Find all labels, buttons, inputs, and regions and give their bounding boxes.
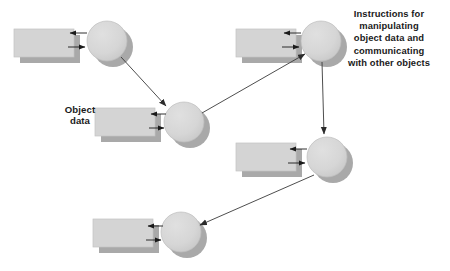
object-data-rect-4[interactable]: [236, 143, 296, 171]
diagram-canvas: Object data Instructions for manipulatin…: [0, 0, 450, 271]
link-top-left-to-middle-left: [121, 57, 166, 106]
object-methods-circle-5[interactable]: [161, 212, 201, 252]
object-unit-middle-right[interactable]: [236, 137, 353, 183]
object-methods-circle-1[interactable]: [87, 21, 127, 61]
object-data-rect-2[interactable]: [95, 108, 155, 136]
object-methods-circle-4[interactable]: [307, 137, 347, 177]
object-data-rect-5[interactable]: [93, 219, 153, 247]
object-data-annotation: Object data: [56, 104, 104, 127]
object-unit-middle-left[interactable]: [95, 102, 210, 148]
link-middle-right-to-bottom-left: [200, 175, 314, 225]
link-top-right-to-middle-right: [322, 62, 324, 134]
instructions-annotation: Instructions for manipulating object dat…: [330, 8, 448, 69]
object-unit-bottom-left[interactable]: [93, 212, 207, 258]
object-methods-circle-2[interactable]: [164, 102, 204, 142]
object-data-rect-1[interactable]: [14, 29, 74, 57]
object-unit-top-left[interactable]: [14, 21, 133, 67]
